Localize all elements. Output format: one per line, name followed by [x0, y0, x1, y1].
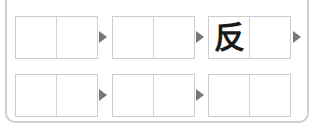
word-box-r1-w1	[15, 16, 98, 59]
arrow-right-icon	[99, 31, 107, 43]
char-cell[interactable]	[16, 17, 56, 58]
arrow-right-icon	[293, 31, 301, 43]
char-cell[interactable]	[113, 75, 153, 116]
char-cell[interactable]	[209, 75, 249, 116]
arrow-right-icon	[196, 89, 204, 101]
char-cell[interactable]	[249, 17, 290, 58]
char-cell-filled[interactable]: 反	[209, 17, 249, 58]
char-cell[interactable]	[56, 17, 97, 58]
word-box-r2-w3	[208, 74, 291, 117]
word-box-r1-w3: 反	[208, 16, 291, 59]
char-cell[interactable]	[16, 75, 56, 116]
char-cell[interactable]	[56, 75, 97, 116]
word-box-r2-w2	[112, 74, 195, 117]
word-box-r1-w2	[112, 16, 195, 59]
char-cell[interactable]	[249, 75, 290, 116]
char-cell[interactable]	[153, 17, 194, 58]
arrow-right-icon	[99, 89, 107, 101]
char-cell[interactable]	[153, 75, 194, 116]
char-cell[interactable]	[113, 17, 153, 58]
arrow-right-icon	[196, 31, 204, 43]
word-box-r2-w1	[15, 74, 98, 117]
